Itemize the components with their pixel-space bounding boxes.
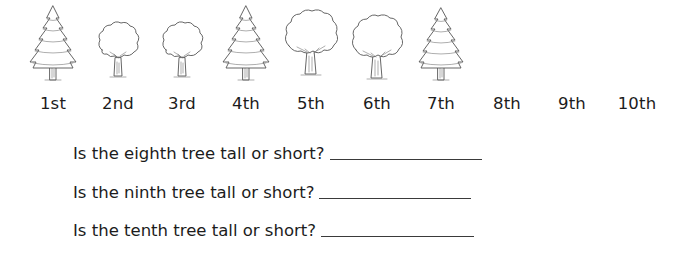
question-tenth: Is the tenth tree tall or short? [73,216,474,242]
ordinal-label: 10th [595,94,679,113]
pine-tree-icon [21,0,85,86]
pine-tree-icon [214,0,278,86]
blank-tree-space [605,0,669,86]
oak-tree-icon [279,0,343,86]
answer-blank[interactable] [321,236,474,237]
answer-blank[interactable] [330,159,482,160]
tree-sequence: 1st 2nd 3rd [0,0,688,125]
oak-tree-icon [86,0,150,86]
blank-tree-space [540,0,604,86]
pine-tree-icon [409,0,473,86]
tree-slot-10: 10th [605,0,669,125]
question-text: Is the ninth tree tall or short? [73,182,314,204]
question-text: Is the tenth tree tall or short? [73,220,316,242]
blank-tree-space [475,0,539,86]
oak-tree-icon [150,0,214,86]
answer-blank[interactable] [319,198,471,199]
oak-tree-icon [345,0,409,86]
tree-slot-5: 5th [279,0,343,125]
question-text: Is the eighth tree tall or short? [73,143,325,165]
question-eighth: Is the eighth tree tall or short? [73,139,482,165]
tree-slot-7: 7th [409,0,473,125]
question-ninth: Is the ninth tree tall or short? [73,178,471,204]
